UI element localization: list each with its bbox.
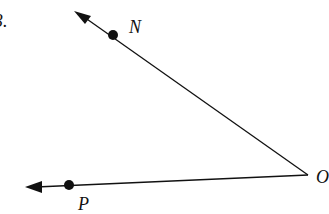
problem-number: 3. bbox=[0, 11, 8, 31]
label-n: N bbox=[128, 17, 142, 37]
ray-op-arrowhead-icon bbox=[25, 181, 42, 193]
ray-on-line bbox=[84, 17, 308, 175]
point-n bbox=[108, 30, 118, 40]
point-p bbox=[64, 180, 74, 190]
label-o: O bbox=[316, 167, 329, 187]
angle-diagram: 3. N P O bbox=[0, 0, 329, 214]
label-p: P bbox=[77, 194, 89, 214]
ray-op-line bbox=[36, 175, 308, 187]
ray-on-arrowhead-icon bbox=[74, 11, 91, 24]
